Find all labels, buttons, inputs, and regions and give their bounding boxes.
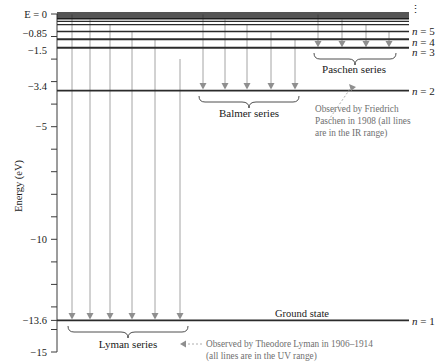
- y-axis: E = 0 −0.85 −1.5 −3.4 −5 −10 −13.6 −15 E…: [13, 9, 57, 358]
- y-ticklabel-34: −3.4: [28, 81, 48, 92]
- y-axis-title: Energy (eV): [13, 160, 25, 212]
- lyman-series-label: Lyman series: [99, 338, 157, 350]
- n-rest-2: = 2: [418, 85, 435, 97]
- lyman-annotation-line-2: (all lines are in the UV range): [206, 351, 317, 362]
- y-ticklabel-15: −1.5: [28, 45, 47, 56]
- y-ticklabel-5: −5: [36, 121, 47, 132]
- arrowhead-balmer-5: [292, 83, 299, 90]
- paschen-annotation-line-2: Paschen in 1908 (all lines: [315, 116, 411, 127]
- ground-state-label: Ground state: [275, 308, 329, 319]
- transition-arrowheads-group: [69, 41, 393, 320]
- paschen-series-group: Paschen series: [314, 53, 396, 75]
- paschen-annotation-line-1: Observed by Friedrich: [315, 104, 399, 114]
- paschen-annotation-group: Observed by Friedrich Paschen in 1908 (a…: [315, 84, 411, 139]
- arrowhead-lyman-5: [152, 313, 159, 320]
- level-ellipsis: ⋮: [410, 3, 421, 15]
- arrowhead-paschen-4: [386, 41, 393, 47]
- lyman-series-group: Lyman series: [68, 326, 188, 350]
- balmer-series-group: Balmer series: [199, 96, 299, 119]
- level-label-n3: n = 3: [412, 46, 435, 58]
- level-label-n1: n = 1: [412, 315, 435, 327]
- level-label-n2: n = 2: [412, 85, 435, 97]
- paschen-annotation-line-3: are in the IR range): [315, 128, 387, 139]
- arrowhead-balmer-2: [222, 83, 229, 90]
- arrowhead-lyman-2: [87, 313, 94, 320]
- y-ticklabel-10: −10: [31, 234, 47, 245]
- paschen-series-label: Paschen series: [322, 63, 386, 75]
- arrowhead-balmer-1: [200, 83, 207, 90]
- arrowhead-paschen-2: [339, 41, 346, 47]
- arrowhead-lyman-4: [129, 313, 136, 320]
- n-rest-1: = 1: [418, 315, 435, 327]
- lyman-annotation-line-1: Observed by Theodore Lyman in 1906–1914: [206, 339, 373, 349]
- arrowhead-balmer-3: [244, 83, 251, 90]
- arrowhead-paschen-3: [363, 41, 370, 47]
- balmer-series-label: Balmer series: [219, 107, 279, 119]
- arrowhead-lyman-6: [177, 313, 184, 320]
- arrowhead-paschen-1: [315, 41, 322, 47]
- lyman-annotation-group: Observed by Theodore Lyman in 1906–1914 …: [180, 339, 373, 362]
- energy-level-diagram: E = 0 −0.85 −1.5 −3.4 −5 −10 −13.6 −15 E…: [0, 0, 445, 364]
- y-ticklabel-136: −13.6: [23, 315, 47, 326]
- y-ticklabel-15neg: −15: [31, 347, 47, 358]
- n-rest-3: = 3: [418, 46, 436, 58]
- lyman-brace: [68, 326, 188, 338]
- level-labels-group: ⋮ n = 5 n = 4 n = 3 n = 2 n = 1: [410, 3, 436, 327]
- lyman-annotation-arrowhead: [180, 341, 186, 348]
- y-ticklabel-0: E = 0: [24, 9, 47, 20]
- diagram-svg: E = 0 −0.85 −1.5 −3.4 −5 −10 −13.6 −15 E…: [0, 0, 445, 364]
- arrowhead-lyman-3: [107, 313, 114, 320]
- arrowhead-balmer-4: [268, 83, 275, 90]
- y-ticklabel-085: −0.85: [23, 28, 47, 39]
- transition-lines-group: [72, 15, 389, 319]
- arrowhead-lyman-1: [69, 313, 76, 320]
